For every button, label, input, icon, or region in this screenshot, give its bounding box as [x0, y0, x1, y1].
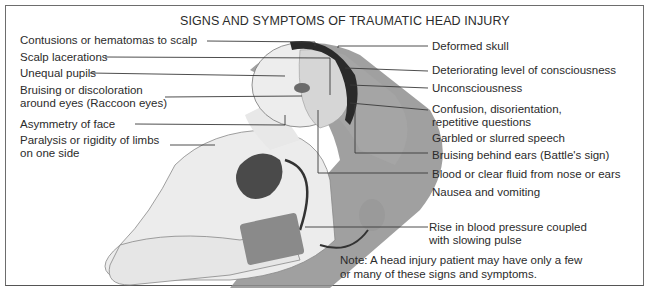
label-blood-fluid: Blood or clear fluid from nose or ears	[432, 168, 621, 181]
label-raccoon-eyes-line2: around eyes (Raccoon eyes)	[20, 97, 167, 110]
label-deformed-skull: Deformed skull	[432, 40, 509, 53]
label-paralysis: Paralysis or rigidity of limbs on one si…	[20, 134, 159, 160]
label-deteriorating-consciousness: Deteriorating level of consciousness	[432, 64, 616, 77]
eye-bruise	[294, 83, 310, 93]
label-paralysis-line2: on one side	[20, 147, 159, 160]
note-line2: or many of these signs and symptoms.	[340, 268, 582, 282]
note-line1: Note: A head injury patient may have onl…	[340, 254, 582, 268]
label-contusions: Contusions or hematomas to scalp	[20, 34, 197, 47]
label-confusion-line1: Confusion, disorientation,	[432, 103, 562, 116]
label-garbled-speech: Garbled or slurred speech	[432, 132, 565, 145]
label-nausea: Nausea and vomiting	[432, 186, 540, 199]
diagram-title: SIGNS AND SYMPTOMS OF TRAUMATIC HEAD INJ…	[180, 14, 510, 28]
label-battles-sign: Bruising behind ears (Battle's sign)	[432, 149, 609, 162]
label-blood-pressure-line2: with slowing pulse	[429, 234, 587, 247]
label-paralysis-line1: Paralysis or rigidity of limbs	[20, 134, 159, 147]
label-confusion: Confusion, disorientation, repetitive qu…	[432, 103, 562, 129]
label-unequal-pupils: Unequal pupils	[20, 67, 96, 80]
label-scalp-lacerations: Scalp lacerations	[20, 51, 108, 64]
label-raccoon-eyes: Bruising or discoloration around eyes (R…	[20, 84, 167, 110]
label-asymmetry-face: Asymmetry of face	[20, 118, 115, 131]
label-blood-pressure: Rise in blood pressure coupled with slow…	[429, 221, 587, 247]
bp-bulb	[359, 199, 385, 231]
label-blood-pressure-line1: Rise in blood pressure coupled	[429, 221, 587, 234]
note-text: Note: A head injury patient may have onl…	[340, 254, 582, 281]
label-raccoon-eyes-line1: Bruising or discoloration	[20, 84, 167, 97]
label-confusion-line2: repetitive questions	[432, 116, 562, 129]
label-unconsciousness: Unconsciousness	[432, 82, 522, 95]
